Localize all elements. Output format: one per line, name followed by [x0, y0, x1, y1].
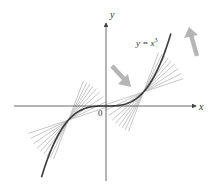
curve-label-exponent: 3	[155, 37, 158, 43]
y-axis-label: y	[109, 9, 115, 20]
curve-label: y = x3	[135, 37, 158, 48]
up-arrow-icon	[184, 27, 198, 56]
x-axis-label: x	[198, 101, 204, 112]
origin-label: 0	[98, 108, 103, 118]
cubic-tangent-diagram: y x 0 y = x3	[0, 0, 218, 187]
curve-label-base: y = x	[135, 38, 155, 48]
down-right-arrow-icon	[112, 66, 131, 87]
diagram-canvas: y x 0 y = x3	[0, 0, 218, 187]
